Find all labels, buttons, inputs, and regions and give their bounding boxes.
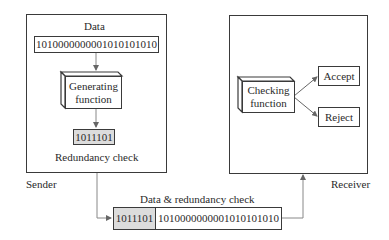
checking-line1: Checking	[247, 84, 289, 97]
checking-line2: function	[250, 97, 287, 110]
accept-label: Accept	[323, 70, 354, 83]
reject-label: Reject	[325, 111, 353, 124]
reject-box: Reject	[318, 107, 360, 127]
packet-label: Data & redundancy check	[140, 193, 255, 205]
data-bits-box: 1010000000001010101010	[34, 36, 159, 53]
generating-line2: function	[75, 93, 112, 106]
sender-label: Sender	[26, 178, 57, 190]
packet-data-cell: 1010000000001010101010	[155, 207, 282, 230]
receiver-label: Receiver	[331, 178, 370, 190]
generating-line1: Generating	[69, 80, 118, 93]
redundancy-check-label: Redundancy check	[55, 151, 138, 163]
redundancy-bits: 1011101	[75, 131, 113, 144]
data-label: Data	[84, 20, 105, 32]
packet-redundancy-bits: 1011101	[116, 212, 154, 225]
packet-data-bits: 1010000000001010101010	[158, 212, 279, 225]
accept-box: Accept	[318, 66, 360, 86]
generating-function-box: Generating function	[65, 76, 122, 109]
checking-function-box: Checking function	[242, 81, 295, 113]
redundancy-bits-box: 1011101	[73, 129, 115, 145]
packet-redundancy-cell: 1011101	[113, 207, 156, 230]
data-bits: 1010000000001010101010	[36, 38, 157, 51]
